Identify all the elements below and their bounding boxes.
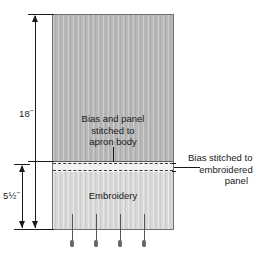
- bias-strip: [52, 162, 174, 172]
- extension-line-bottom: [14, 229, 54, 230]
- dimension-label-embroidery-height: 5½˝: [3, 190, 20, 201]
- bias-stitched-callout: Bias stitched to embroidered panel: [188, 152, 264, 187]
- bias-callout-line-2: embroidered: [188, 164, 264, 176]
- apron-body-annotation-line-1: Bias and panel: [52, 113, 174, 125]
- arrow-down-icon: [19, 221, 25, 228]
- dimension-label-overall-height: 18˝: [19, 108, 33, 119]
- pin-head: [70, 240, 74, 247]
- arrow-up-icon: [32, 15, 38, 22]
- bias-callout-line-3: panel: [188, 175, 264, 187]
- pin-head: [94, 240, 98, 247]
- apron-body-annotation: Bias and panel stitched to apron body: [52, 113, 174, 148]
- pin-head: [142, 240, 146, 247]
- dimension-line-overall-height: [35, 16, 36, 228]
- stitch-line-lower: [53, 170, 173, 171]
- leader-line-apron-body: [113, 147, 114, 162]
- pin-head: [118, 240, 122, 247]
- dimension-line-embroidery-height: [22, 166, 23, 228]
- apron-construction-diagram: 18˝ 5½˝ Bias and panel stitched to apron…: [0, 0, 264, 258]
- bias-callout-line-1: Bias stitched to: [188, 152, 264, 164]
- embroidery-annotation: Embroidery: [52, 190, 174, 201]
- apron-body-annotation-line-3: apron body: [52, 136, 174, 148]
- embroidered-panel: [52, 172, 174, 230]
- stitch-line-upper: [53, 163, 173, 164]
- arrow-down-icon: [32, 221, 38, 228]
- apron-body-annotation-line-2: stitched to: [52, 125, 174, 137]
- arrow-up-icon: [19, 165, 25, 172]
- extension-line-middle: [28, 161, 54, 162]
